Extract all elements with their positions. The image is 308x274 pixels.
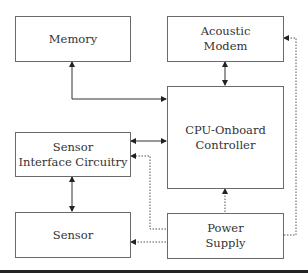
- power-interface-link: [131, 156, 166, 229]
- memory-block: Memory: [15, 16, 131, 62]
- bottom-divider: [0, 270, 308, 273]
- power-supply-block: Power Supply: [167, 213, 284, 259]
- memory-label: Memory: [49, 32, 97, 47]
- memory-cpu-link: [72, 62, 166, 99]
- acoustic-modem-label: Acoustic Modem: [201, 24, 251, 54]
- cpu-controller-block: CPU-Onboard Controller: [167, 86, 284, 189]
- cpu-controller-label: CPU-Onboard Controller: [185, 123, 266, 153]
- power-modem-link: [284, 38, 296, 235]
- power-supply-label: Power Supply: [205, 221, 245, 251]
- sensor-interface-block: Sensor Interface Circuitry: [15, 132, 131, 177]
- sensor-block: Sensor: [15, 212, 131, 258]
- sensor-label: Sensor: [53, 228, 93, 243]
- sensor-interface-label: Sensor Interface Circuitry: [18, 140, 127, 170]
- acoustic-modem-block: Acoustic Modem: [167, 16, 284, 62]
